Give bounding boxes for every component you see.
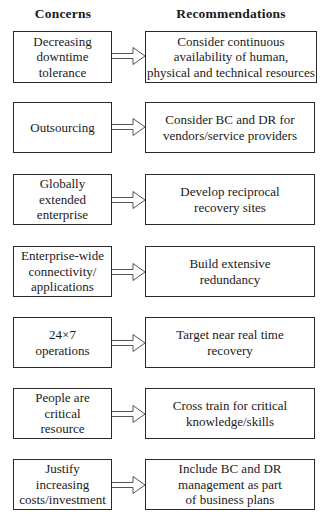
recommendation-box: Include BC and DR management as part of … [145,459,315,510]
hollow-right-arrow-icon [111,475,146,495]
recommendation-box: Develop reciprocal recovery sites [145,174,315,225]
concern-text: Decreasing downtime tolerance [33,34,91,81]
concern-row: 24×7 operations Target near real time re… [0,317,325,368]
recommendation-box: Build extensive redundancy [145,246,315,297]
recommendation-text: Build extensive redundancy [189,256,270,287]
concern-box: People are critical resource [13,388,112,439]
concern-text: Outsourcing [30,120,94,136]
recommendation-box: Cross train for critical knowledge/skill… [145,388,315,439]
hollow-right-arrow-icon [111,46,146,66]
concern-row: People are critical resource Cross train… [0,388,325,439]
concern-box: Decreasing downtime tolerance [13,31,112,83]
concern-row: Decreasing downtime tolerance Consider c… [0,31,325,83]
concern-box: Globally extended enterprise [13,174,112,225]
recommendation-box: Consider BC and DR for vendors/service p… [145,102,315,153]
concern-text: People are critical resource [35,390,90,437]
concern-row: Outsourcing Consider BC and DR for vendo… [0,102,325,153]
recommendation-text: Cross train for critical knowledge/skill… [173,398,287,429]
header-concerns: Concerns [13,6,113,22]
hollow-right-arrow-icon [111,190,146,210]
recommendation-text: Consider continuous availability of huma… [147,34,315,81]
concern-row: Justify increasing costs/investment Incl… [0,459,325,510]
concern-row: Globally extended enterprise Develop rec… [0,174,325,225]
header-recommendations: Recommendations [145,6,317,22]
recommendation-text: Include BC and DR management as part of … [178,461,282,508]
recommendation-box: Target near real time recovery [145,317,315,368]
concern-text: Globally extended enterprise [37,176,88,223]
concern-box: 24×7 operations [13,317,112,368]
recommendation-text: Target near real time recovery [176,327,284,358]
concern-box: Justify increasing costs/investment [13,459,112,510]
recommendation-box: Consider continuous availability of huma… [145,31,317,83]
recommendation-text: Develop reciprocal recovery sites [180,184,279,215]
concern-box: Outsourcing [13,102,112,153]
concern-text: Enterprise-wide connectivity/ applicatio… [21,248,104,295]
hollow-right-arrow-icon [111,117,146,137]
hollow-right-arrow-icon [111,262,146,282]
concern-text: 24×7 operations [35,327,89,358]
concern-box: Enterprise-wide connectivity/ applicatio… [13,246,112,297]
concern-row: Enterprise-wide connectivity/ applicatio… [0,246,325,297]
hollow-right-arrow-icon [111,404,146,424]
hollow-right-arrow-icon [111,333,146,353]
recommendation-text: Consider BC and DR for vendors/service p… [163,112,297,143]
concern-text: Justify increasing costs/investment [19,461,106,508]
